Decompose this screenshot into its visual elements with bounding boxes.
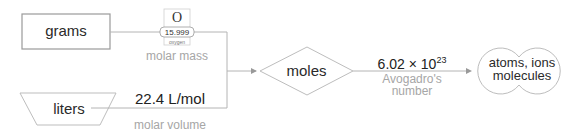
avogadro-caption-line2: number bbox=[372, 85, 452, 97]
grams-label: grams bbox=[22, 22, 110, 39]
avogadro-value: 6.02 × 1023 bbox=[372, 55, 452, 72]
molar-volume-caption: molar volume bbox=[125, 118, 215, 132]
particles-label-line2: molecules bbox=[470, 69, 574, 82]
arrowhead-icon bbox=[251, 68, 257, 74]
element-symbol: O bbox=[164, 10, 190, 26]
avogadro-base: 6.02 × 10 bbox=[378, 56, 437, 72]
avogadro-caption: Avogadro's number bbox=[372, 73, 452, 97]
particles-label: atoms, ions molecules bbox=[470, 56, 574, 82]
avogadro-exponent: 23 bbox=[436, 55, 446, 65]
molar-mass-caption: molar mass bbox=[140, 49, 214, 63]
liters-label: liters bbox=[30, 100, 108, 117]
molar-volume-value: 22.4 L/mol bbox=[125, 90, 215, 107]
element-name: oxygen bbox=[164, 39, 190, 45]
element-mass: 15.999 bbox=[160, 28, 194, 37]
moles-label: moles bbox=[260, 62, 353, 79]
